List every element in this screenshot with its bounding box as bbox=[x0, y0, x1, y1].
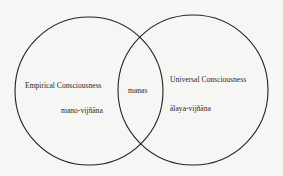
venn-diagram: Empirical Consciousness mano-vijñāna man… bbox=[0, 0, 283, 176]
left-circle-subtitle: mano-vijñāna bbox=[61, 106, 103, 115]
left-circle-title: Empirical Consciousness bbox=[25, 81, 102, 90]
right-circle-subtitle: ālaya-vijñāna bbox=[170, 104, 212, 113]
intersection-label: manas bbox=[128, 86, 147, 95]
right-circle-title: Universal Consciousness bbox=[170, 75, 246, 84]
